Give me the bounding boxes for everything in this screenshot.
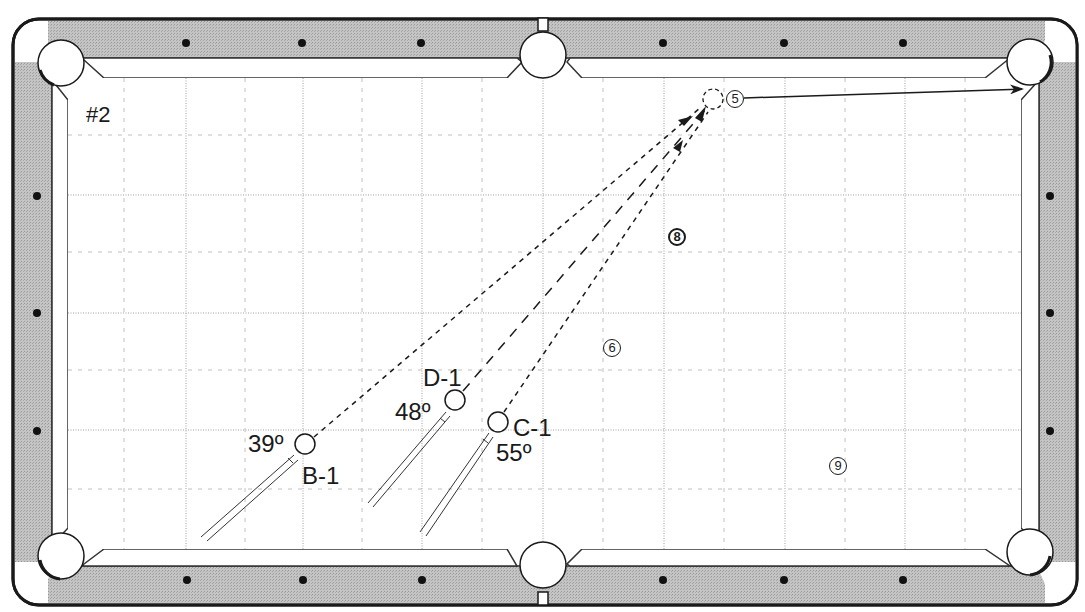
- position-label-b1: B-1: [302, 464, 339, 488]
- pocket-bottom-left: [38, 533, 84, 579]
- angle-label-d1: 48º: [395, 400, 430, 424]
- pocket-top-left: [38, 40, 84, 86]
- cue-ball-d1: [445, 390, 465, 410]
- cue-ball-b1: [295, 434, 315, 454]
- angle-label-b1: 39º: [248, 432, 283, 456]
- ball-5: 5: [726, 90, 744, 108]
- table-svg: [0, 0, 1085, 612]
- ball-6: 6: [603, 339, 621, 357]
- angle-label-c1: 55º: [496, 441, 531, 465]
- pocket-top-right: [1007, 39, 1053, 85]
- position-label-d1: D-1: [423, 366, 462, 390]
- diagram-title: #2: [86, 104, 110, 126]
- ball-9: 9: [829, 457, 847, 475]
- pocket-bottom-right: [1007, 529, 1053, 575]
- pool-table-diagram: #2 39º B-1 48º D-1 C-1 55º 5 6 8 9: [0, 0, 1085, 612]
- cue-ball-c1: [488, 412, 508, 432]
- ball-8: 8: [668, 228, 686, 246]
- position-label-c1: C-1: [513, 416, 552, 440]
